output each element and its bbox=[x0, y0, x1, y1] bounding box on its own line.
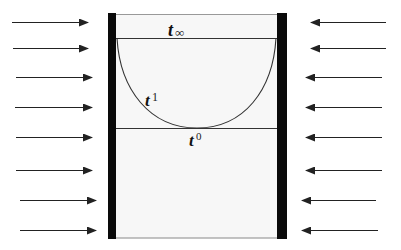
svg-text:1: 1 bbox=[152, 90, 158, 104]
right-wall bbox=[277, 13, 287, 239]
left-arrows bbox=[12, 23, 96, 231]
left-wall bbox=[108, 13, 116, 239]
container-interior bbox=[116, 14, 277, 238]
svg-text:∞: ∞ bbox=[175, 25, 184, 40]
svg-text:0: 0 bbox=[196, 130, 202, 142]
right-arrows bbox=[302, 23, 386, 231]
diagram-canvas: t ∞ t 1 t 0 bbox=[0, 0, 401, 250]
